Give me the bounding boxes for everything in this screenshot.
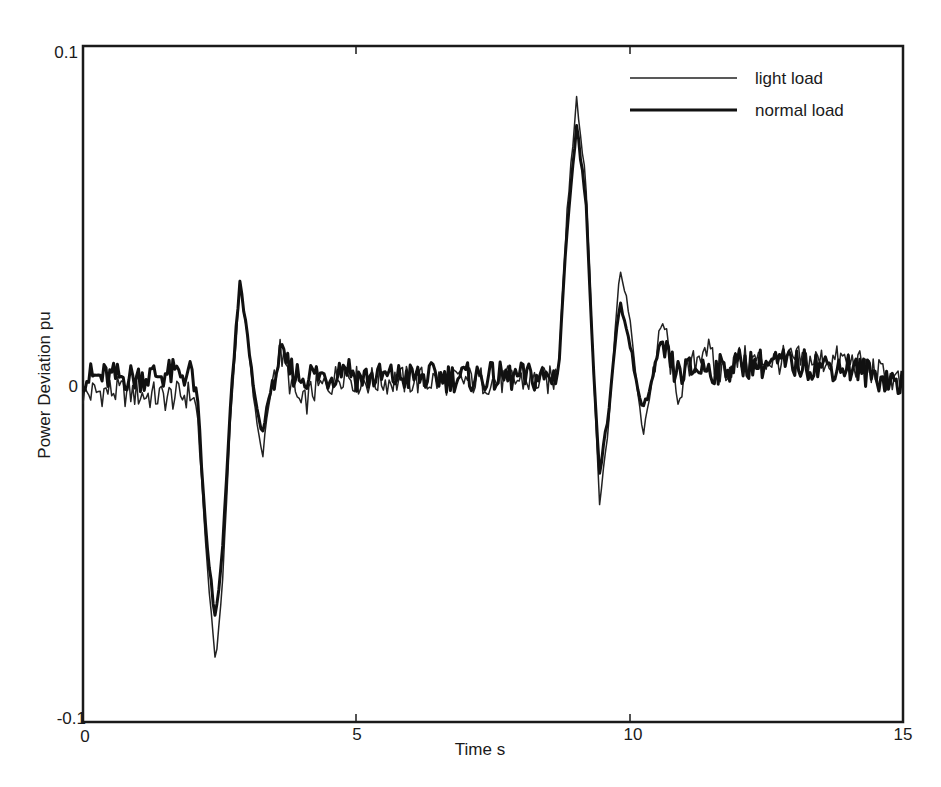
series-group: [83, 97, 902, 658]
y-tick-label-bottom: -0.1: [57, 709, 86, 728]
x-tick-label-0: 0: [80, 727, 89, 746]
y-tick-label-top: 0.1: [54, 43, 78, 62]
x-tick-label-5: 5: [352, 725, 361, 744]
line-chart: 0.1 0 -0.1 0 5 10 15 Time s Power Deviat…: [0, 0, 941, 787]
x-tick-label-10: 10: [624, 725, 643, 744]
y-tick-label-zero: 0: [69, 377, 78, 396]
x-axis-label: Time s: [455, 740, 505, 759]
legend: light load normal load: [630, 69, 844, 120]
x-tick-label-15: 15: [894, 725, 913, 744]
legend-label-light-load: light load: [755, 69, 823, 88]
y-axis-label: Power Deviation pu: [35, 311, 54, 458]
legend-label-normal-load: normal load: [755, 101, 844, 120]
